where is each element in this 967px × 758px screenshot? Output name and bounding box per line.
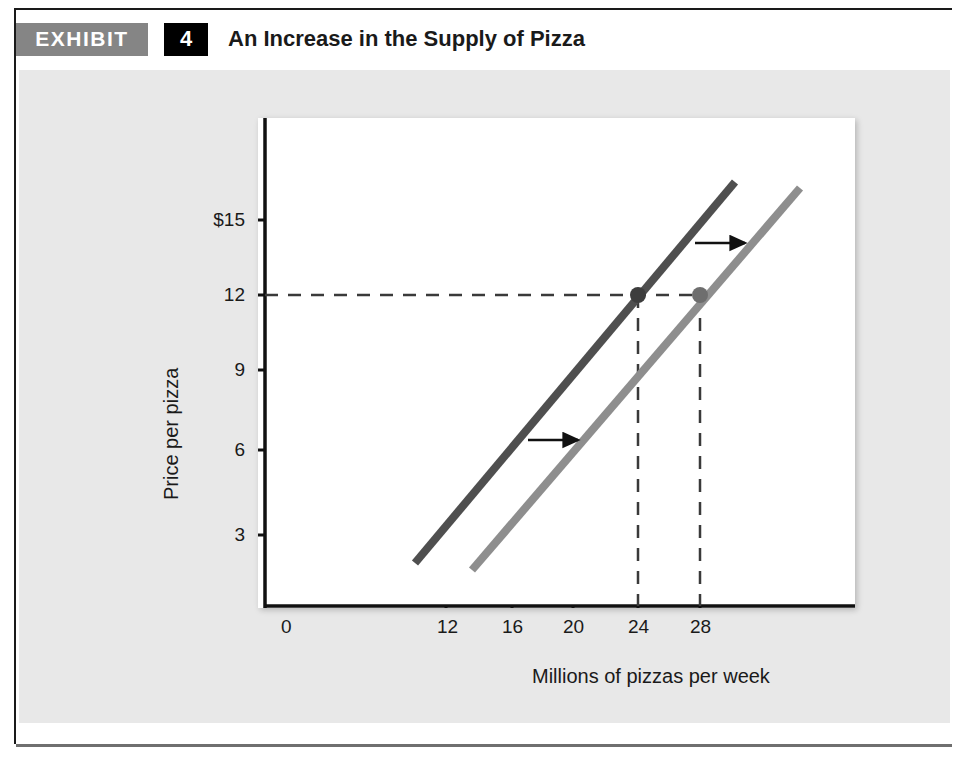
point-h-marker — [692, 287, 708, 303]
x-tick-label-24: 24 — [628, 616, 649, 638]
exhibit-badge: EXHIBIT — [16, 23, 148, 56]
x-axis-label: Millions of pizzas per week — [532, 665, 770, 688]
exhibit-title: An Increase in the Supply of Pizza — [228, 26, 585, 52]
supply-curve-s — [415, 182, 735, 563]
supply-curve-s-prime — [472, 188, 800, 570]
exhibit-bottom-rule — [16, 744, 952, 747]
y-tick-label-6: 6 — [185, 439, 245, 461]
chart-panel: $15 12 9 6 3 Price per pizza 0 12 16 20 … — [19, 70, 950, 723]
supply-curve-plot — [258, 118, 855, 608]
x-tick-label-16: 16 — [502, 616, 523, 638]
y-axis-label: Price per pizza — [160, 368, 183, 500]
y-tick-label-15: $15 — [185, 209, 245, 231]
y-tick-label-9: 9 — [185, 359, 245, 381]
y-tick-label-3: 3 — [185, 524, 245, 546]
x-tick-label-28: 28 — [690, 616, 711, 638]
x-tick-label-12: 12 — [437, 616, 458, 638]
exhibit-number-badge: 4 — [164, 23, 208, 56]
exhibit-header: EXHIBIT 4 An Increase in the Supply of P… — [16, 18, 585, 60]
x-tick-label-0: 0 — [281, 616, 292, 638]
y-tick-label-12: 12 — [185, 284, 245, 306]
plot-area — [258, 118, 855, 608]
point-g-marker — [630, 287, 646, 303]
x-tick-label-20: 20 — [563, 616, 584, 638]
